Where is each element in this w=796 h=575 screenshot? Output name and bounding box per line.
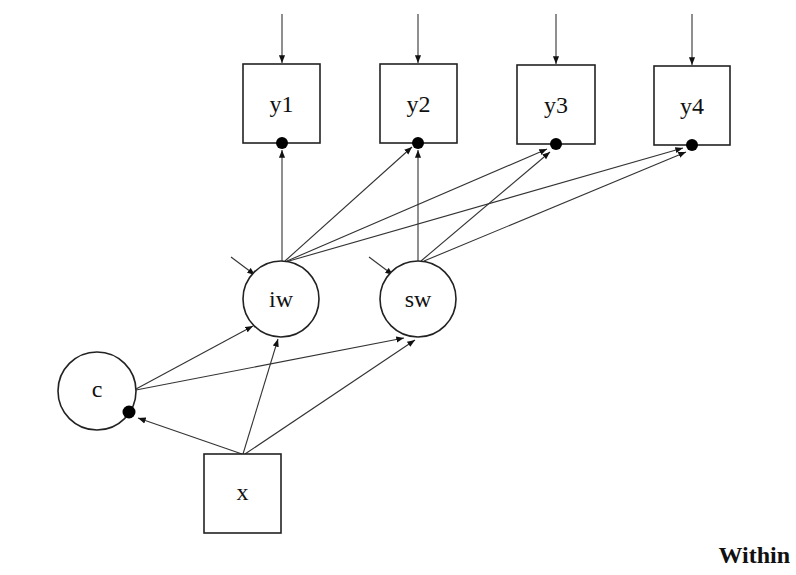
path-sw-y3: [421, 152, 550, 261]
node-y3: y3: [517, 65, 595, 150]
label-y3: y3: [544, 92, 568, 118]
node-y2: y2: [380, 64, 457, 149]
label-iw: iw: [269, 286, 294, 312]
label-x: x: [237, 479, 249, 505]
path-diagram: y1 y2 y3 y4 x iw sw c Within: [0, 0, 796, 575]
panel-label: Within: [718, 542, 790, 568]
residual-arrows: [231, 14, 692, 275]
path-x-c: [138, 418, 242, 454]
path-x-iw: [243, 339, 278, 454]
node-y1: y1: [243, 64, 320, 149]
random-effect-dot-c: [123, 406, 136, 419]
node-y4: y4: [654, 66, 730, 151]
random-effect-dot-y1: [276, 137, 288, 149]
path-iw-y3: [287, 149, 547, 261]
path-sw-y4: [424, 152, 686, 261]
label-y1: y1: [270, 91, 294, 117]
random-effect-dot-y2: [412, 137, 424, 149]
label-y4: y4: [680, 93, 704, 119]
node-sw: sw: [380, 261, 456, 337]
random-effect-dot-y3: [550, 138, 562, 150]
label-c: c: [92, 376, 103, 402]
node-iw: iw: [243, 261, 319, 337]
node-x: x: [204, 454, 281, 533]
label-sw: sw: [405, 286, 432, 312]
node-c: c: [58, 352, 136, 430]
residual-arrow-sw: [369, 257, 393, 275]
path-x-sw: [245, 340, 415, 454]
random-effect-dot-y4: [686, 139, 698, 151]
path-c-iw: [136, 326, 253, 389]
label-y2: y2: [407, 91, 431, 117]
residual-arrow-iw: [231, 257, 255, 275]
